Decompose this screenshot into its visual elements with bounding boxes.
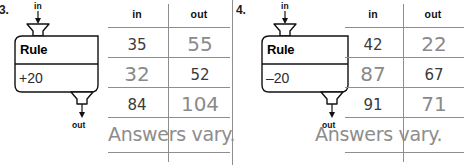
machine-bottom-funnel-4 bbox=[321, 92, 343, 104]
table-header-out-4: out bbox=[403, 8, 463, 20]
out-arrow-head-3 bbox=[79, 112, 85, 118]
table-rule-header-4 bbox=[345, 27, 464, 28]
table-cell-out-r2-4[interactable]: 67 bbox=[405, 68, 463, 83]
machine-out-label-3: out bbox=[72, 120, 86, 130]
rule-title-3: Rule bbox=[20, 42, 47, 57]
table-cell-out-r1-3[interactable]: 55 bbox=[170, 34, 230, 54]
problem-number-4: 4. bbox=[236, 3, 246, 17]
worksheet-page: 3. in Rule +20 out bbox=[0, 0, 466, 165]
answers-vary-note-4: Answers vary. bbox=[315, 123, 442, 145]
table-cell-in-r3-4[interactable]: 91 bbox=[345, 98, 401, 113]
table-rule-row4-4 bbox=[345, 152, 464, 153]
table-rule-row2-3 bbox=[108, 87, 230, 88]
answers-vary-note-3: Answers vary. bbox=[108, 123, 235, 145]
table-header-in-3: in bbox=[108, 8, 166, 20]
table-cell-in-r2-3[interactable]: 32 bbox=[108, 64, 166, 84]
table-rule-row2-4 bbox=[345, 87, 464, 88]
problem-panel-4: 4. in Rule –20 out in out bbox=[233, 0, 466, 165]
table-cell-out-r3-4[interactable]: 71 bbox=[405, 94, 463, 114]
table-header-out-3: out bbox=[168, 8, 230, 20]
problem-panel-3: 3. in Rule +20 out bbox=[0, 0, 233, 165]
in-arrow-head-3 bbox=[35, 18, 41, 24]
in-arrow-head-4 bbox=[282, 18, 288, 24]
table-cell-in-r3-3[interactable]: 84 bbox=[108, 98, 166, 113]
machine-bottom-funnel-3 bbox=[71, 92, 93, 104]
out-arrow-head-4 bbox=[329, 112, 335, 118]
table-cell-out-r1-4[interactable]: 22 bbox=[405, 34, 463, 54]
table-rule-row1-3 bbox=[108, 57, 230, 58]
table-cell-out-r2-3[interactable]: 52 bbox=[170, 68, 230, 83]
rule-expression-4: –20 bbox=[266, 70, 289, 86]
table-rule-row3-3 bbox=[108, 117, 230, 118]
machine-top-funnel-3 bbox=[27, 24, 49, 36]
table-rule-row1-4 bbox=[345, 57, 464, 58]
table-cell-in-r1-4[interactable]: 42 bbox=[345, 38, 401, 53]
table-header-in-4: in bbox=[345, 8, 401, 20]
table-rule-row3-4 bbox=[345, 117, 464, 118]
rule-expression-3: +20 bbox=[19, 70, 43, 86]
table-cell-out-r3-3[interactable]: 104 bbox=[170, 94, 230, 114]
machine-top-funnel-4 bbox=[274, 24, 296, 36]
table-cell-in-r2-4[interactable]: 87 bbox=[345, 64, 401, 84]
function-machine-3: in Rule +20 out bbox=[8, 0, 113, 140]
table-cell-in-r1-3[interactable]: 35 bbox=[108, 38, 166, 53]
rule-title-4: Rule bbox=[267, 42, 294, 57]
table-rule-header-3 bbox=[108, 27, 230, 28]
table-rule-row4-3 bbox=[108, 152, 230, 153]
